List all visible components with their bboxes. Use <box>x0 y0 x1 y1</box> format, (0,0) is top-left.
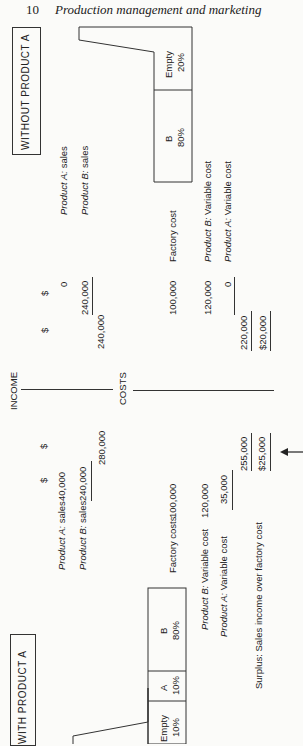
without-income-a-value: 0 <box>59 282 69 287</box>
without-variable-b-value: 120,000 <box>203 281 213 315</box>
with-cost-total-rule <box>251 433 252 471</box>
with-currency-2: $ <box>39 444 49 449</box>
with-income-total: 280,000 <box>97 431 107 465</box>
without-factory-cost-value: 100,000 <box>168 281 178 315</box>
without-income-b-value: 240,000 <box>80 281 90 315</box>
without-cost-total-rule <box>251 311 252 351</box>
with-b-label: B <box>159 628 169 634</box>
with-b-pct: 80% <box>171 621 181 640</box>
with-empty-label: Empty <box>159 715 169 742</box>
with-a-label: A <box>159 685 169 691</box>
with-income-b-value: 240,000 <box>78 467 88 501</box>
with-cost-total: 255,000 <box>239 437 249 471</box>
with-currency-1: $ <box>39 478 49 483</box>
without-income-b-label: Product B: sales <box>80 146 90 215</box>
without-surplus: $20,000 <box>258 316 268 350</box>
without-income-subtotal-rule <box>92 277 93 315</box>
without-variable-b-label: Product B: Variable cost <box>203 161 213 262</box>
with-surplus-rule <box>270 433 271 471</box>
without-variable-a-value: 0 <box>223 282 233 287</box>
with-variable-b-value: 120,000 <box>200 484 210 518</box>
without-factory-outline <box>0 0 303 200</box>
left-arrow-icon <box>280 445 303 459</box>
with-empty-pct: 10% <box>171 718 181 737</box>
without-factory-cost-label: Factory cost <box>168 210 178 262</box>
costs-divider-line <box>133 390 274 391</box>
without-b-pct: 80% <box>176 128 186 147</box>
without-currency-1: $ <box>40 291 50 296</box>
with-factory-outline <box>0 560 303 744</box>
with-product-a-title: WITH PRODUCT A <box>18 651 28 744</box>
income-divider-line <box>21 389 113 390</box>
without-empty-label: Empty <box>164 51 174 78</box>
without-surplus-rule <box>270 311 271 351</box>
with-variable-a-value: 35,000 <box>219 475 229 504</box>
with-factory-cost-value: 100,000 <box>168 484 178 518</box>
with-a-pct: 10% <box>171 676 181 695</box>
without-b-label: B <box>164 136 174 142</box>
without-currency-2: $ <box>40 328 50 333</box>
with-surplus: $25,000 <box>257 437 267 471</box>
without-income-a-label: Product A: sales <box>59 146 69 215</box>
with-income-a-value: 40,000 <box>57 472 67 501</box>
without-income-total: 240,000 <box>96 315 106 349</box>
with-cost-subtotal-rule <box>232 470 233 510</box>
without-cost-subtotal-rule <box>234 277 235 315</box>
costs-label: COSTS <box>118 372 128 405</box>
without-variable-a-label: Product A: Variable cost <box>223 161 233 262</box>
without-empty-pct: 20% <box>176 53 186 72</box>
with-income-subtotal-rule <box>91 461 92 501</box>
income-label: INCOME <box>9 372 19 410</box>
without-cost-total: 220,000 <box>239 316 249 350</box>
